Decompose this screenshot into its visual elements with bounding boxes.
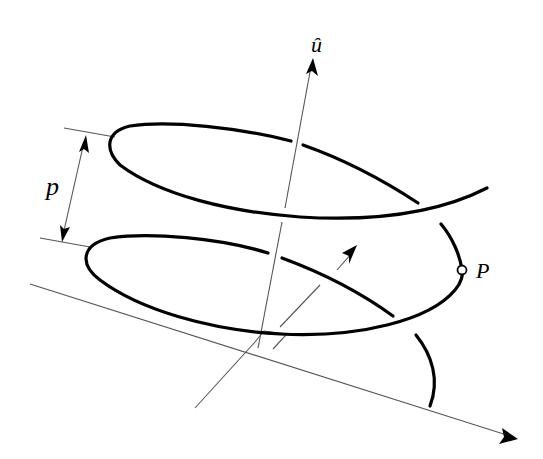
axis-arrowhead-icon — [306, 58, 318, 76]
point-p-marker — [458, 266, 467, 275]
reference-arrowhead-icon — [499, 428, 518, 444]
axis-label-u-hat: û — [311, 32, 322, 57]
reference-line — [30, 284, 518, 444]
pitch-arrowhead-up-icon — [79, 135, 89, 153]
screw-axis — [258, 58, 318, 348]
pitch-label: p — [44, 172, 59, 201]
helix-curve — [86, 124, 487, 406]
helix-diagram: û p P — [0, 0, 543, 459]
point-p-label: P — [475, 258, 489, 283]
